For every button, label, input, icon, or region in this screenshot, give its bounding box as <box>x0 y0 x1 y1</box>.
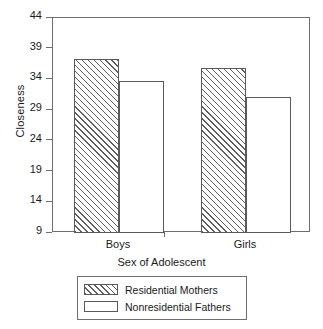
legend-item-nonresidential-fathers: Nonresidential Fathers <box>84 298 240 315</box>
legend-item-residential-mothers: Residential Mothers <box>84 281 240 298</box>
y-axis-tick-label: 39 <box>0 40 42 52</box>
bar-boys-residential-mothers <box>74 59 119 233</box>
legend-label: Residential Mothers <box>125 284 218 296</box>
x-axis-category-label-girls: Girls <box>190 238 300 250</box>
legend-swatch-hatched-icon <box>84 284 118 295</box>
x-axis-tick-mark <box>164 232 165 237</box>
y-axis-tick-label: 24 <box>0 132 42 144</box>
y-axis-tick-label: 9 <box>0 224 42 236</box>
legend-swatch-open-icon <box>84 301 118 312</box>
y-axis-tick-label: 34 <box>0 70 42 82</box>
legend-label: Nonresidential Fathers <box>125 301 231 313</box>
x-axis-title: Sex of Adolescent <box>0 256 323 268</box>
y-axis-tick-label: 19 <box>0 163 42 175</box>
y-axis-tick-label: 44 <box>0 9 42 21</box>
chart-legend: Residential Mothers Nonresidential Fathe… <box>77 276 247 320</box>
y-axis-tick-label: 29 <box>0 101 42 113</box>
bar-girls-residential-mothers <box>201 68 246 233</box>
bar-boys-nonresidential-fathers <box>119 81 164 233</box>
bar-chart-figure: Closeness 914192429343944 BoysGirls Sex … <box>0 0 323 329</box>
plot-area <box>52 17 310 232</box>
y-axis-tick-label: 14 <box>0 193 42 205</box>
x-axis-category-label-boys: Boys <box>63 238 173 250</box>
bar-girls-nonresidential-fathers <box>246 97 291 233</box>
